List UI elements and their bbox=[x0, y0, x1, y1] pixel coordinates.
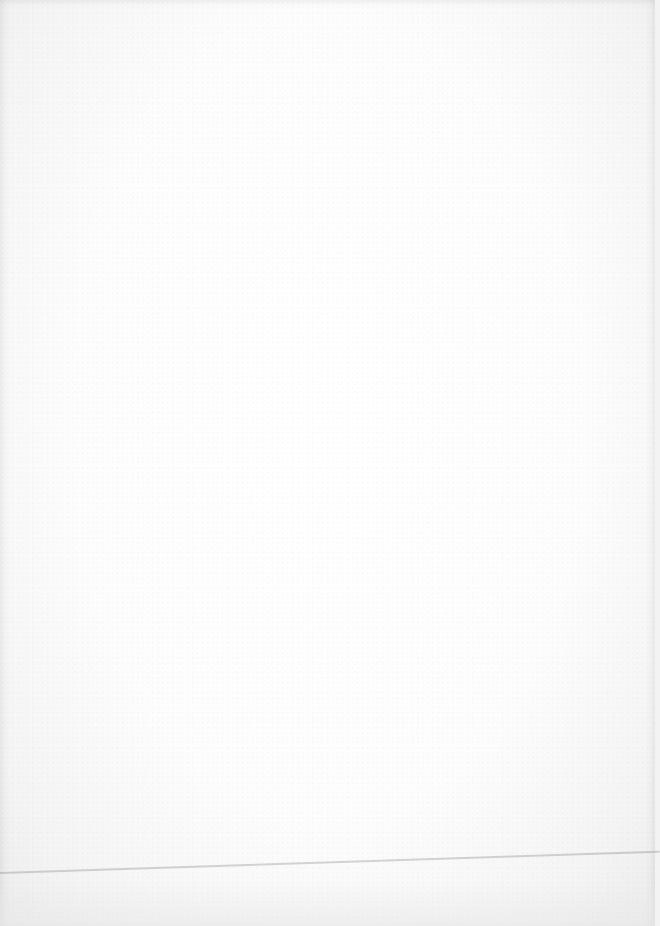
horizontal-fold-line bbox=[0, 851, 660, 874]
bottom-edge-shading bbox=[0, 880, 655, 926]
